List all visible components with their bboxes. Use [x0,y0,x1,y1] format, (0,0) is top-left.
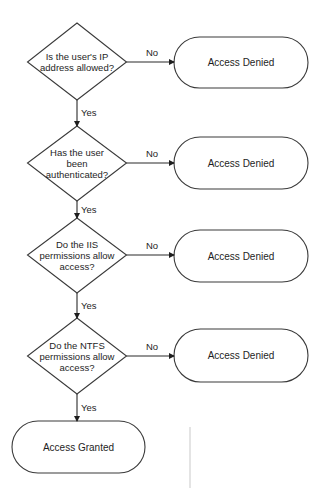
decision-text: Do the NTFS [49,340,104,351]
decision-text: access? [60,261,95,272]
flowchart: Is the user's IPaddress allowed?Has the … [0,0,328,503]
edge-label-yes: Yes [81,204,97,215]
edge-auth-check-no: No [127,148,175,163]
edge-label-no: No [146,341,158,352]
terminal-text: Access Denied [208,251,275,262]
decision-text: Has the user [50,147,104,158]
decision-text: permissions allow [40,351,115,362]
terminal-text: Access Denied [208,350,275,361]
decision-ip-check: Is the user's IPaddress allowed? [28,23,127,100]
decision-text: access? [60,362,95,373]
edge-label-yes: Yes [81,402,97,413]
edge-iis-check-yes: Yes [77,293,97,318]
terminal-denied-1: Access Denied [174,37,308,88]
decision-text: Do the IIS [56,239,98,250]
decision-text: authenticated? [46,169,108,180]
decision-ntfs-check: Do the NTFSpermissions allowaccess? [28,318,127,394]
edge-label-no: No [146,240,158,251]
decision-text: permissions allow [40,250,115,261]
terminal-text: Access Denied [208,57,275,68]
terminal-denied-2: Access Denied [174,137,308,189]
decision-text: address allowed? [40,62,114,73]
edge-ip-check-yes: Yes [77,100,97,126]
terminal-text: Access Denied [208,158,275,169]
edge-label-yes: Yes [81,107,97,118]
decision-text: been [66,158,87,169]
decision-auth-check: Has the userbeenauthenticated? [28,126,127,201]
decision-iis-check: Do the IISpermissions allowaccess? [28,218,127,293]
edge-label-no: No [146,148,158,159]
edge-label-yes: Yes [81,300,97,311]
terminal-denied-4: Access Denied [174,329,308,382]
terminal-denied-3: Access Denied [174,230,308,282]
decision-text: Is the user's IP [46,51,109,62]
edge-auth-check-yes: Yes [77,201,97,218]
terminal-granted: Access Granted [12,421,145,473]
edge-ntfs-check-yes: Yes [77,394,97,421]
terminal-text: Access Granted [43,442,114,453]
edge-iis-check-no: No [127,240,175,255]
edge-ntfs-check-no: No [127,341,175,356]
edge-ip-check-no: No [127,47,175,62]
edge-label-no: No [146,47,158,58]
